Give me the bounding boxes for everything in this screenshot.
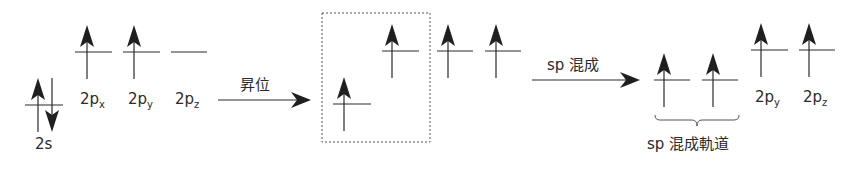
hybridization-label: sp 混成 [547, 58, 599, 73]
promotion-label: 昇位 [240, 78, 270, 93]
excited-2pz-orbital [485, 24, 521, 78]
label-sub: y [147, 99, 153, 110]
label-sub: x [99, 99, 105, 110]
label-hybrid-2py: 2py [755, 90, 780, 108]
label-2px: 2px [80, 92, 105, 110]
label-main: 2s [35, 135, 52, 153]
label-sub: z [822, 97, 827, 108]
label-main: 2p [80, 90, 99, 108]
ground-2py-orbital [123, 25, 160, 79]
label-2py: 2py [128, 92, 153, 110]
label-hybrid-2pz: 2pz [803, 90, 827, 108]
sp-hybrid-orbital-label: sp 混成軌道 [647, 137, 729, 152]
brace-icon [655, 115, 739, 126]
ground-2s-orbital [25, 78, 63, 132]
hybridization-arrow-icon [532, 72, 640, 88]
label-main: 2p [175, 90, 194, 108]
label-2pz: 2pz [175, 92, 199, 110]
excited-2py-orbital [437, 24, 473, 78]
label-main: 2p [755, 88, 774, 106]
label-main: 2p [128, 90, 147, 108]
excited-2s-orbital [333, 77, 371, 131]
label-sub: y [774, 97, 780, 108]
sp-hybrid-orbital-1 [654, 53, 690, 107]
dashed-box [322, 13, 430, 142]
ground-2px-orbital [75, 25, 112, 79]
label-main: 2p [803, 88, 822, 106]
hybrid-2py-orbital [751, 23, 788, 77]
excited-2px-orbital [382, 24, 419, 78]
label-sub: z [194, 99, 199, 110]
label-2s: 2s [35, 137, 52, 152]
hybrid-2pz-orbital [799, 23, 835, 77]
orbital-diagram [0, 0, 860, 175]
sp-hybrid-orbital-2 [702, 53, 738, 107]
promotion-arrow-icon [218, 92, 311, 108]
